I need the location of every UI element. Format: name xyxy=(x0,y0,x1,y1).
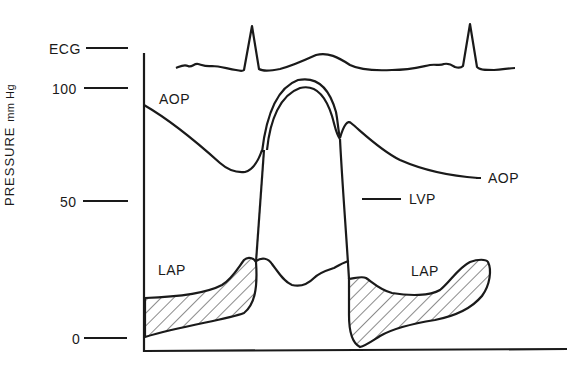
ecg-trace xyxy=(176,24,515,71)
lap-label-left: LAP xyxy=(158,263,186,277)
tick-label-0: 0 xyxy=(72,332,80,346)
cardiac-pressure-diagram: ECG 100 50 0 PRESSURE mm Hg AOP AOP LVP … xyxy=(0,0,586,369)
aop-label-left: AOP xyxy=(159,92,190,106)
lap-label-right: LAP xyxy=(411,264,439,278)
lvp-label: LVP xyxy=(409,192,436,206)
lvp-downstroke xyxy=(340,139,349,279)
y-axis-label: PRESSURE mm Hg xyxy=(2,84,17,206)
tick-label-100: 100 xyxy=(52,82,77,96)
lvp-upstroke xyxy=(256,150,264,262)
y-axis-ticks xyxy=(83,48,128,338)
aop-label-right: AOP xyxy=(488,171,519,185)
aop-trace-right xyxy=(340,122,478,178)
tick-label-50: 50 xyxy=(60,195,77,209)
lap-wave-middle xyxy=(256,259,349,286)
ecg-label: ECG xyxy=(49,42,81,56)
aop-trace-left xyxy=(144,105,262,172)
x-axis xyxy=(144,349,567,351)
